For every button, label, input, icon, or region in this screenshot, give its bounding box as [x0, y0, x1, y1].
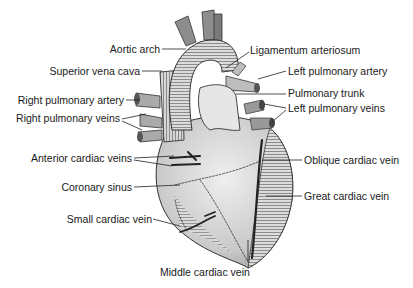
- label-oblique-cardiac-vein: Oblique cardiac vein: [304, 154, 399, 166]
- label-pulmonary-trunk: Pulmonary trunk: [288, 87, 364, 99]
- label-anterior-cardiac-veins: Anterior cardiac veins: [31, 152, 132, 164]
- pulmonary-trunk-shape: [198, 85, 240, 131]
- label-small-cardiac-vein: Small cardiac vein: [67, 213, 152, 225]
- label-ligamentum-arteriosum: Ligamentum arteriosum: [250, 44, 360, 56]
- label-great-cardiac-vein: Great cardiac vein: [304, 190, 389, 202]
- heart-diagram: Aortic arch Superior vena cava Right pul…: [0, 0, 413, 288]
- label-coronary-sinus: Coronary sinus: [61, 181, 132, 193]
- label-middle-cardiac-vein: Middle cardiac vein: [160, 266, 250, 278]
- label-right-pulmonary-artery: Right pulmonary artery: [18, 94, 124, 106]
- label-left-pulmonary-veins: Left pulmonary veins: [288, 102, 385, 114]
- label-left-pulmonary-artery: Left pulmonary artery: [288, 65, 387, 77]
- label-superior-vena-cava: Superior vena cava: [50, 65, 140, 77]
- label-right-pulmonary-veins: Right pulmonary veins: [16, 112, 120, 124]
- label-aortic-arch: Aortic arch: [110, 43, 160, 55]
